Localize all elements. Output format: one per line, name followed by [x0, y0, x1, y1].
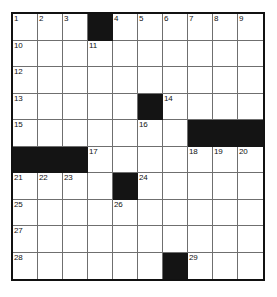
- crossword-cell[interactable]: 28: [13, 253, 38, 280]
- clue-number: 8: [214, 14, 218, 23]
- crossword-cell[interactable]: 13: [13, 94, 38, 121]
- crossword-cell[interactable]: 3: [63, 14, 88, 41]
- crossword-cell[interactable]: [113, 120, 138, 147]
- crossword-cell[interactable]: 22: [38, 173, 63, 200]
- crossword-cell[interactable]: [38, 226, 63, 253]
- crossword-cell[interactable]: [188, 94, 213, 121]
- crossword-cell[interactable]: [213, 41, 238, 68]
- crossword-cell[interactable]: [238, 41, 263, 68]
- crossword-cell[interactable]: [63, 41, 88, 68]
- crossword-cell[interactable]: [113, 226, 138, 253]
- crossword-cell[interactable]: [163, 226, 188, 253]
- crossword-cell[interactable]: [138, 41, 163, 68]
- crossword-cell[interactable]: [63, 94, 88, 121]
- crossword-cell[interactable]: [138, 226, 163, 253]
- crossword-cell[interactable]: 4: [113, 14, 138, 41]
- crossword-block-cell: [13, 147, 38, 174]
- crossword-cell[interactable]: 10: [13, 41, 38, 68]
- crossword-cell[interactable]: [113, 67, 138, 94]
- crossword-cell[interactable]: [38, 41, 63, 68]
- crossword-cell[interactable]: [88, 94, 113, 121]
- crossword-grid[interactable]: 1234567891011121314151617181920212223242…: [11, 12, 265, 281]
- crossword-block-cell: [88, 14, 113, 41]
- crossword-cell[interactable]: [38, 200, 63, 227]
- crossword-cell[interactable]: [163, 41, 188, 68]
- crossword-cell[interactable]: [213, 94, 238, 121]
- clue-number: 24: [139, 173, 148, 182]
- crossword-cell[interactable]: 29: [188, 253, 213, 280]
- crossword-cell[interactable]: [188, 41, 213, 68]
- crossword-cell[interactable]: [113, 94, 138, 121]
- crossword-cell[interactable]: 7: [188, 14, 213, 41]
- crossword-cell[interactable]: 19: [213, 147, 238, 174]
- crossword-cell[interactable]: [163, 173, 188, 200]
- crossword-cell[interactable]: [188, 200, 213, 227]
- crossword-cell[interactable]: [213, 226, 238, 253]
- crossword-cell[interactable]: 21: [13, 173, 38, 200]
- crossword-cell[interactable]: [238, 94, 263, 121]
- crossword-cell[interactable]: [163, 200, 188, 227]
- crossword-cell[interactable]: [238, 253, 263, 280]
- crossword-cell[interactable]: 11: [88, 41, 113, 68]
- crossword-cell[interactable]: [38, 94, 63, 121]
- crossword-cell[interactable]: [88, 253, 113, 280]
- crossword-cell[interactable]: [88, 173, 113, 200]
- crossword-cell[interactable]: [88, 67, 113, 94]
- crossword-cell[interactable]: [63, 226, 88, 253]
- clue-number: 19: [214, 147, 223, 156]
- crossword-cell[interactable]: 5: [138, 14, 163, 41]
- crossword-cell[interactable]: 26: [113, 200, 138, 227]
- crossword-cell[interactable]: 18: [188, 147, 213, 174]
- crossword-cell[interactable]: [63, 120, 88, 147]
- crossword-cell[interactable]: [38, 253, 63, 280]
- crossword-cell[interactable]: [163, 67, 188, 94]
- crossword-cell[interactable]: [63, 67, 88, 94]
- crossword-cell[interactable]: [63, 253, 88, 280]
- crossword-cell[interactable]: 20: [238, 147, 263, 174]
- crossword-cell[interactable]: 25: [13, 200, 38, 227]
- crossword-cell[interactable]: [138, 67, 163, 94]
- crossword-block-cell: [138, 94, 163, 121]
- crossword-cell[interactable]: [188, 67, 213, 94]
- crossword-cell[interactable]: [238, 200, 263, 227]
- clue-number: 25: [14, 200, 23, 209]
- crossword-cell[interactable]: [213, 200, 238, 227]
- crossword-cell[interactable]: 23: [63, 173, 88, 200]
- crossword-cell[interactable]: [88, 120, 113, 147]
- crossword-cell[interactable]: [188, 173, 213, 200]
- crossword-cell[interactable]: 24: [138, 173, 163, 200]
- crossword-cell[interactable]: [88, 200, 113, 227]
- crossword-cell[interactable]: [213, 67, 238, 94]
- crossword-cell[interactable]: [238, 67, 263, 94]
- crossword-cell[interactable]: 14: [163, 94, 188, 121]
- crossword-cell[interactable]: [238, 173, 263, 200]
- crossword-cell[interactable]: [188, 226, 213, 253]
- crossword-cell[interactable]: 16: [138, 120, 163, 147]
- crossword-cell[interactable]: [88, 226, 113, 253]
- crossword-cell[interactable]: [113, 253, 138, 280]
- crossword-cell[interactable]: [113, 147, 138, 174]
- crossword-cell[interactable]: 27: [13, 226, 38, 253]
- crossword-cell[interactable]: 2: [38, 14, 63, 41]
- crossword-cell[interactable]: [38, 67, 63, 94]
- crossword-cell[interactable]: [113, 41, 138, 68]
- crossword-cell[interactable]: [213, 173, 238, 200]
- crossword-cell[interactable]: [138, 147, 163, 174]
- crossword-cell[interactable]: [213, 253, 238, 280]
- crossword-cell[interactable]: [163, 120, 188, 147]
- clue-number: 18: [189, 147, 198, 156]
- crossword-cell[interactable]: 8: [213, 14, 238, 41]
- crossword-cell[interactable]: [63, 200, 88, 227]
- crossword-cell[interactable]: [138, 253, 163, 280]
- crossword-cell[interactable]: 6: [163, 14, 188, 41]
- crossword-cell[interactable]: 15: [13, 120, 38, 147]
- crossword-cell[interactable]: [38, 120, 63, 147]
- crossword-cell[interactable]: 1: [13, 14, 38, 41]
- crossword-cell[interactable]: 17: [88, 147, 113, 174]
- crossword-block-cell: [188, 120, 213, 147]
- crossword-cell[interactable]: 9: [238, 14, 263, 41]
- crossword-cell[interactable]: 12: [13, 67, 38, 94]
- crossword-cell[interactable]: [138, 200, 163, 227]
- crossword-cell[interactable]: [163, 147, 188, 174]
- crossword-cell[interactable]: [238, 226, 263, 253]
